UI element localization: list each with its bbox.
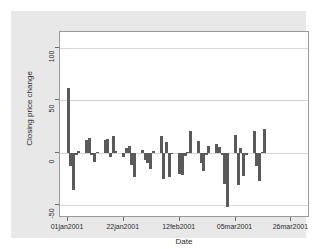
y-tick-label: -50 [48,203,55,225]
bar [197,141,200,153]
y-axis-title: Closing price change [25,49,34,169]
bar [114,151,117,153]
bar [77,151,80,153]
bar [184,153,187,156]
x-tick-label: 05mar2001 [217,223,252,230]
bar [67,88,70,153]
bar [88,138,91,153]
x-tick-mark [179,217,180,221]
x-tick-label: 26mar2001 [273,223,308,230]
bar [237,153,240,186]
bar [263,129,266,153]
bar [72,153,75,190]
x-tick-label: 12feb2001 [162,223,195,230]
bar [181,153,184,175]
y-tick-label: 0 [48,150,55,172]
bar [205,153,208,155]
bar [133,153,136,177]
bar [245,153,248,155]
bar [170,153,173,154]
bar [189,131,192,153]
x-tick-mark [67,217,68,221]
bar [253,131,256,153]
bar [109,153,112,157]
bar [234,135,237,153]
bar [160,136,163,153]
bar [162,153,165,179]
x-axis-title: Date [59,237,309,246]
x-tick-mark [123,217,124,221]
bar [152,151,155,153]
x-tick-label: 22jan2001 [106,223,139,230]
bar [122,153,125,157]
plot-area [59,31,309,217]
bar [242,153,245,176]
bar [165,142,168,153]
bar [207,146,210,153]
bar [149,153,152,169]
bar [202,153,205,171]
graph-region: Closing price change -50050100 01jan2001… [11,11,306,238]
bar [106,139,109,153]
bar [226,153,229,208]
chart-screenshot: Closing price change -50050100 01jan2001… [0,0,315,249]
bar [168,153,171,177]
bar [96,152,99,153]
x-tick-mark [290,217,291,221]
bar [258,153,261,181]
bar [93,153,96,163]
bar [128,146,131,153]
x-tick-mark [235,217,236,221]
y-tick-label: 100 [48,45,55,67]
bar [75,153,78,155]
y-tick-label: 50 [48,98,55,120]
x-tick-label: 01jan2001 [51,223,84,230]
bar-series [60,32,308,216]
